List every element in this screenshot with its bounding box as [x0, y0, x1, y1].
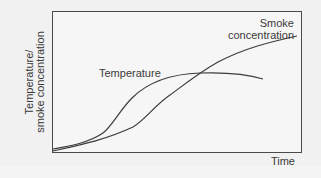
y-axis-label: Temperature/ smoke concentration — [23, 31, 46, 133]
smoke-label-line2: concentration — [228, 29, 294, 41]
temperature-label: Temperature — [99, 67, 161, 79]
x-axis-label: Time — [271, 155, 295, 167]
figure: Temperature Smoke concentration Time Tem… — [0, 0, 321, 178]
chart-svg: Temperature Smoke concentration Time Tem… — [0, 0, 321, 178]
y-axis-label-line2: smoke concentration — [34, 31, 46, 133]
smoke-label-line1: Smoke — [260, 17, 294, 29]
